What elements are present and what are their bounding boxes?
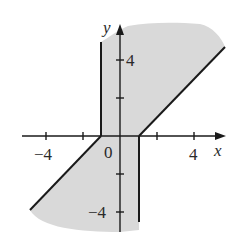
x-tick-label-neg4: −4 [34,145,53,164]
y-tick-label-neg4: −4 [88,203,107,222]
y-axis-label: y [101,18,111,37]
y-tick-label-4: 4 [126,51,135,70]
region-plot: y x −4 0 4 4 −4 [0,0,238,242]
x-axis-label: x [213,141,222,160]
origin-label: 0 [104,143,113,162]
x-tick-label-4: 4 [189,145,198,164]
